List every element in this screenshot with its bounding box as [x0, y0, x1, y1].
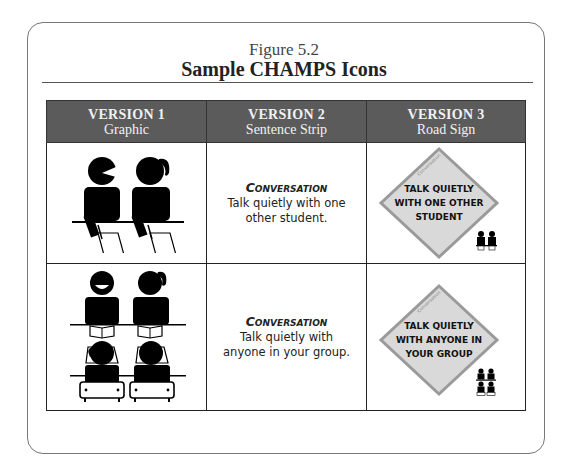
- figure-title: Sample CHAMPS Icons: [0, 58, 568, 81]
- header-version-subtitle: Graphic: [47, 122, 206, 137]
- header-version-subtitle: Sentence Strip: [207, 122, 366, 137]
- sign-text-line: YOUR GROUP: [404, 349, 472, 359]
- two-students-icon: [476, 231, 497, 250]
- sign-text-line: TALK QUIETLY: [404, 321, 474, 331]
- table-row: Conversation Talk quietly with anyone in…: [47, 264, 526, 411]
- strip-text-line: anyone in your group.: [207, 345, 366, 360]
- header-version-1: VERSION 1 Graphic: [47, 101, 207, 143]
- strip-text-line: other student.: [207, 211, 366, 226]
- road-sign-diamond: Conversation TALK QUIETLY WITH ONE OTHER…: [371, 146, 521, 261]
- two-students-talking-icon: [62, 153, 192, 253]
- strip-heading: Conversation: [207, 314, 366, 329]
- table-row: Conversation Talk quietly with one other…: [47, 143, 526, 264]
- sentence-strip: Conversation Talk quietly with anyone in…: [207, 314, 366, 360]
- sign-text-line: WITH ONE OTHER: [395, 198, 484, 208]
- sign-text-line: TALK QUIETLY: [404, 184, 474, 194]
- header-version-2: VERSION 2 Sentence Strip: [207, 101, 367, 143]
- strip-text-line: Talk quietly with one: [207, 196, 366, 211]
- figure-label: Figure 5.2: [0, 40, 568, 60]
- graphic-cell: [47, 264, 207, 411]
- four-students-icon: [476, 368, 496, 395]
- sentence-strip: Conversation Talk quietly with one other…: [207, 180, 366, 226]
- header-version-label: VERSION 2: [207, 107, 366, 122]
- header-version-label: VERSION 1: [47, 107, 206, 122]
- title-rule: [42, 82, 533, 83]
- road-sign-cell: Conversation TALK QUIETLY WITH ONE OTHER…: [367, 143, 526, 264]
- sign-text-line: STUDENT: [415, 212, 463, 222]
- sentence-strip-cell: Conversation Talk quietly with one other…: [207, 143, 367, 264]
- road-sign-cell: Conversation TALK QUIETLY WITH ANYONE IN…: [367, 264, 526, 411]
- header-version-3: VERSION 3 Road Sign: [367, 101, 526, 143]
- header-row: VERSION 1 Graphic VERSION 2 Sentence Str…: [47, 101, 526, 143]
- header-version-label: VERSION 3: [367, 107, 525, 122]
- sign-text-line: WITH ANYONE IN: [396, 335, 482, 345]
- sentence-strip-cell: Conversation Talk quietly with anyone in…: [207, 264, 367, 411]
- road-sign-diamond: Conversation TALK QUIETLY WITH ANYONE IN…: [371, 270, 521, 405]
- champs-icons-table: VERSION 1 Graphic VERSION 2 Sentence Str…: [46, 100, 526, 411]
- strip-text-line: Talk quietly with: [207, 330, 366, 345]
- strip-heading: Conversation: [207, 180, 366, 195]
- group-of-students-icon: [62, 267, 192, 407]
- graphic-cell: [47, 143, 207, 264]
- header-version-subtitle: Road Sign: [367, 122, 525, 137]
